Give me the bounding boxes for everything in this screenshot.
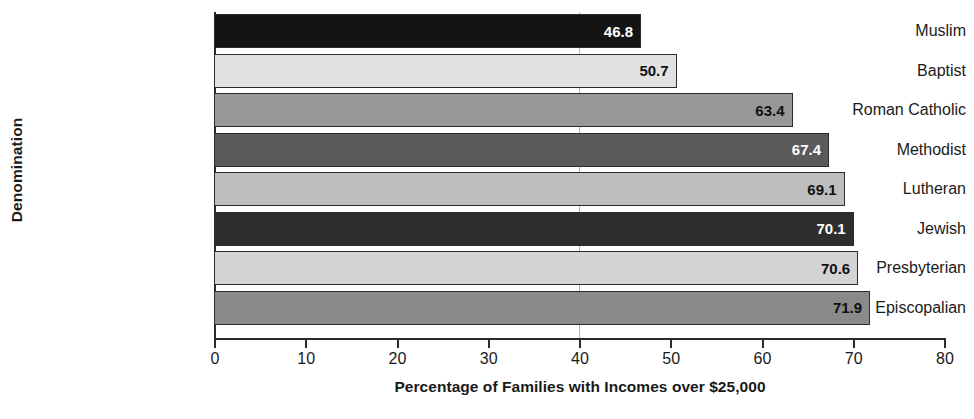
x-tick-label: 20 — [368, 350, 428, 368]
bar: 46.8 — [214, 14, 641, 48]
x-tick — [944, 340, 946, 348]
bar-value-label: 46.8 — [604, 24, 640, 39]
bar-value-label: 67.4 — [792, 142, 828, 157]
bar-value-label: 50.7 — [639, 63, 675, 78]
x-tick — [397, 340, 399, 348]
x-tick-label: 40 — [550, 350, 610, 368]
bar-row: 50.7 — [214, 54, 944, 88]
bar-row: 70.1 — [214, 212, 944, 246]
bar-row: 69.1 — [214, 172, 944, 206]
bar-row: 46.8 — [214, 14, 944, 48]
bar-row: 63.4 — [214, 93, 944, 127]
plot-area: 46.850.763.467.469.170.170.671.9 — [214, 12, 944, 338]
x-tick — [214, 340, 216, 348]
bar: 70.1 — [214, 212, 854, 246]
bar-row: 70.6 — [214, 251, 944, 285]
x-tick-label: 80 — [915, 350, 974, 368]
bar-value-label: 70.1 — [816, 221, 852, 236]
bar: 63.4 — [214, 93, 793, 127]
bar-value-label: 70.6 — [821, 261, 857, 276]
x-tick — [670, 340, 672, 348]
y-axis-title: Denomination — [0, 0, 34, 340]
bar: 50.7 — [214, 54, 677, 88]
x-tick-label: 60 — [733, 350, 793, 368]
bar-value-label: 69.1 — [807, 182, 843, 197]
x-tick — [579, 340, 581, 348]
x-tick-label: 30 — [459, 350, 519, 368]
x-tick-label: 70 — [824, 350, 884, 368]
bar: 70.6 — [214, 251, 858, 285]
x-tick — [762, 340, 764, 348]
bar-value-label: 63.4 — [755, 103, 791, 118]
bar-row: 67.4 — [214, 133, 944, 167]
x-tick — [488, 340, 490, 348]
x-tick-label: 50 — [641, 350, 701, 368]
bar-row: 71.9 — [214, 291, 944, 325]
bar: 71.9 — [214, 291, 870, 325]
x-axis-title: Percentage of Families with Incomes over… — [214, 378, 946, 396]
bar-chart: Denomination MuslimBaptistRoman Catholic… — [0, 0, 974, 419]
y-axis-title-text: Denomination — [8, 118, 26, 223]
x-tick — [305, 340, 307, 348]
bar-value-label: 71.9 — [833, 300, 869, 315]
bar: 69.1 — [214, 172, 845, 206]
x-tick-label: 10 — [276, 350, 336, 368]
bar: 67.4 — [214, 133, 829, 167]
x-tick — [853, 340, 855, 348]
x-tick-label: 0 — [185, 350, 245, 368]
